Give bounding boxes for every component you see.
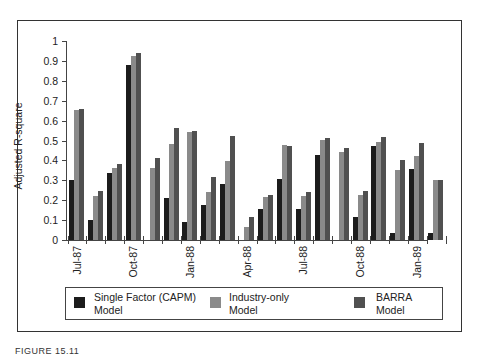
- bar-may-88-s2: [268, 195, 273, 240]
- bar-feb-89-s2: [438, 180, 443, 240]
- legend-label-barra: BARRA Model: [376, 291, 412, 317]
- bar-jan-88-s2: [192, 131, 197, 240]
- legend-swatch-capm: [74, 297, 85, 308]
- bar-aug-87-s2: [98, 191, 103, 240]
- x-tick-mark: [408, 236, 409, 244]
- bar-jun-88-s2: [287, 146, 292, 240]
- bar-nov-87-s2: [155, 158, 160, 240]
- x-tick-mark: [143, 236, 144, 244]
- y-tick-label: 0.5: [20, 136, 58, 146]
- bar-sep-87-s2: [117, 164, 122, 240]
- y-tick-label: 1: [20, 36, 58, 46]
- legend-barra-line2: Model: [376, 304, 412, 317]
- legend-capm-line2: Model: [94, 304, 196, 317]
- x-tick-mark: [86, 236, 87, 244]
- legend-industry-line1: Industry-only: [229, 291, 289, 304]
- x-tick-mark: [162, 236, 163, 244]
- bar-oct-88-s2: [363, 191, 368, 240]
- x-tick-mark: [446, 236, 447, 244]
- y-tick-label: 0.2: [20, 195, 58, 205]
- figure-caption: FIGURE 15.11: [15, 346, 79, 354]
- bar-oct-87-s2: [136, 53, 141, 240]
- x-tick-label: Jul-88: [297, 246, 309, 286]
- x-tick-mark: [370, 236, 371, 244]
- bar-jan-89-s2: [419, 143, 424, 241]
- bar-aug-88-s2: [325, 138, 330, 240]
- x-tick-mark: [105, 236, 106, 244]
- legend-swatch-industry: [210, 297, 221, 308]
- bar-dec-88-s2: [400, 160, 405, 240]
- y-tick-label: 0.9: [20, 56, 58, 66]
- bar-dec-87-s2: [174, 128, 179, 240]
- legend-label-industry: Industry-only Model: [229, 291, 289, 317]
- x-tick-label: Oct-88: [354, 246, 366, 286]
- x-tick-mark: [219, 236, 220, 244]
- x-tick-label: Oct-87: [127, 246, 139, 286]
- x-tick-label: Jan-89: [411, 246, 423, 286]
- x-tick-mark: [275, 236, 276, 244]
- x-tick-label: Jan-88: [184, 246, 196, 286]
- x-tick-label: Jul-87: [71, 246, 83, 286]
- x-tick-mark: [389, 236, 390, 244]
- legend-industry-line2: Model: [229, 304, 289, 317]
- x-tick-mark: [238, 236, 239, 244]
- bar-nov-88-s2: [381, 137, 386, 240]
- bar-mar-88-s2: [230, 136, 235, 240]
- y-tick-label: 0.7: [20, 96, 58, 106]
- legend-capm-line1: Single Factor (CAPM): [94, 291, 196, 304]
- x-tick-mark: [181, 236, 182, 244]
- bar-sep-88-s2: [344, 148, 349, 240]
- x-tick-mark: [68, 236, 69, 244]
- bar-apr-88-s2: [249, 217, 254, 240]
- y-tick-label: 0.6: [20, 116, 58, 126]
- x-tick-mark: [257, 236, 258, 244]
- x-axis-line: [66, 240, 428, 241]
- x-tick-mark: [313, 236, 314, 244]
- bar-jul-88-s2: [306, 192, 311, 240]
- x-tick-mark: [332, 236, 333, 244]
- y-tick-label: 0.1: [20, 215, 58, 225]
- legend-barra-line1: BARRA: [376, 291, 412, 304]
- x-tick-mark: [351, 236, 352, 244]
- plot-area: [66, 41, 426, 240]
- y-tick-label: 0.8: [20, 76, 58, 86]
- legend: Single Factor (CAPM) Model Industry-only…: [65, 287, 443, 320]
- x-tick-mark: [124, 236, 125, 244]
- x-tick-label: Apr-88: [241, 246, 253, 286]
- legend-label-capm: Single Factor (CAPM) Model: [94, 291, 196, 317]
- y-tick-label: 0: [20, 235, 58, 245]
- x-tick-mark: [200, 236, 201, 244]
- x-tick-mark: [294, 236, 295, 244]
- bar-jul-87-s2: [79, 109, 84, 240]
- y-tick-label: 0.4: [20, 155, 58, 165]
- x-tick-mark: [427, 236, 428, 244]
- bar-feb-88-s2: [211, 177, 216, 240]
- y-tick-label: 0.3: [20, 175, 58, 185]
- legend-swatch-barra: [354, 297, 365, 308]
